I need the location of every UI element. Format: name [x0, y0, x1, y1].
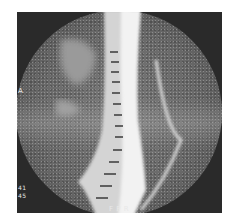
orientation-label-bottom: F P R — [109, 206, 129, 213]
field-of-view-circle — [17, 12, 222, 213]
mri-frame: A 41 45 F P R — [17, 12, 222, 213]
spine-illustration — [17, 12, 222, 213]
orientation-label-anterior: A — [18, 88, 23, 95]
series-label-1: 41 — [18, 184, 27, 191]
series-label-2: 45 — [18, 192, 27, 199]
